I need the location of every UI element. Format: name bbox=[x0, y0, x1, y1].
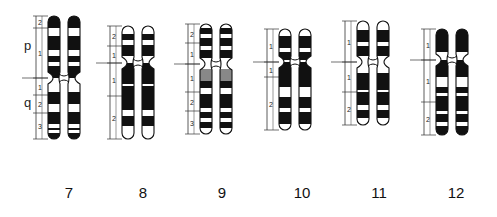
chromosome-label-9: 9 bbox=[207, 184, 237, 201]
region-number: 1 bbox=[38, 84, 42, 91]
region-number: 2 bbox=[38, 19, 42, 26]
region-number: 2 bbox=[426, 116, 430, 123]
chromosome-8: 2112 bbox=[96, 26, 156, 139]
q-arm-label: q bbox=[24, 95, 31, 110]
region-number: 3 bbox=[38, 123, 42, 130]
region-number: 1 bbox=[269, 43, 273, 50]
chromosome-10: 112 bbox=[253, 29, 313, 130]
region-number: 1 bbox=[426, 78, 430, 85]
region-number: 3 bbox=[190, 120, 194, 127]
region-number: 2 bbox=[112, 33, 116, 40]
region-number: 2 bbox=[269, 101, 273, 108]
chromosome-12: 112 bbox=[410, 29, 470, 135]
region-number: 2 bbox=[347, 106, 351, 113]
chromosome-label-10: 10 bbox=[287, 184, 317, 201]
region-number: 1 bbox=[347, 74, 351, 81]
region-number: 1 bbox=[347, 39, 351, 46]
chromosome-11: 112 bbox=[331, 21, 391, 125]
region-number: 2 bbox=[112, 115, 116, 122]
region-number: 1 bbox=[426, 42, 430, 49]
chromosome-label-11: 11 bbox=[364, 184, 394, 201]
chromosome-label-7: 7 bbox=[54, 184, 84, 201]
chromosome-9: 21123 bbox=[174, 24, 234, 134]
chromosome-ideogram-diagram: 21123211221123112112112 p q 7 8 9 10 11 … bbox=[0, 0, 497, 217]
region-number: 2 bbox=[190, 99, 194, 106]
chromosome-label-8: 8 bbox=[128, 184, 158, 201]
chromosome-label-12: 12 bbox=[441, 184, 471, 201]
region-number: 1 bbox=[112, 77, 116, 84]
region-number: 1 bbox=[112, 52, 116, 59]
region-number: 2 bbox=[190, 31, 194, 38]
region-number: 1 bbox=[190, 51, 194, 58]
p-arm-label: p bbox=[24, 38, 31, 53]
region-number: 1 bbox=[269, 67, 273, 74]
region-number: 2 bbox=[38, 101, 42, 108]
region-number: 1 bbox=[190, 75, 194, 82]
chromosome-7: 21123 bbox=[22, 16, 82, 139]
region-number: 1 bbox=[38, 50, 42, 57]
